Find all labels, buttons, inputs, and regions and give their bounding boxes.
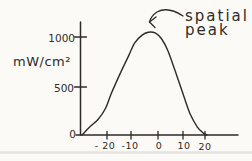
- y-tick-label-500: 500: [54, 82, 74, 94]
- x-tick-label-0: 0: [156, 140, 163, 151]
- x-tick-label-20: 20: [198, 141, 211, 152]
- chart-canvas: 1000 500 0 mW/cm² - 20 -10 0 10 20 spati…: [0, 0, 252, 161]
- figure-container: 1000 500 0 mW/cm² - 20 -10 0 10 20 spati…: [0, 0, 252, 161]
- x-tick-label-10: 10: [177, 140, 190, 151]
- y-axis-unit-label: mW/cm²: [13, 54, 71, 69]
- y-tick-label-1000: 1000: [48, 32, 75, 44]
- y-tick-label-0: 0: [69, 128, 76, 140]
- x-tick-label-neg20: - 20: [95, 140, 116, 151]
- x-tick-label-neg10: -10: [121, 140, 138, 151]
- annotation-text-line2: peak: [185, 21, 230, 39]
